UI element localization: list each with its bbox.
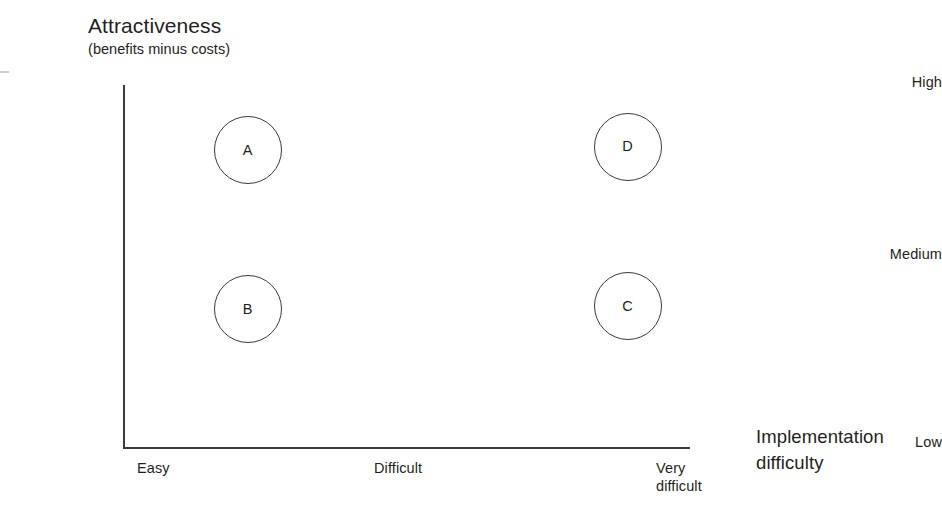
bubble-label-b: B bbox=[243, 302, 253, 317]
y-axis-tick-medium: Medium bbox=[830, 246, 942, 263]
x-axis-title-line1: Implementation bbox=[756, 424, 936, 450]
scan-edge-artifact bbox=[0, 71, 9, 73]
bubble-option-c[interactable]: C bbox=[594, 272, 662, 340]
y-axis-tick-high: High bbox=[830, 74, 942, 91]
bubble-option-a[interactable]: A bbox=[214, 116, 282, 184]
x-axis-tick-very-difficult: Very difficult bbox=[656, 459, 702, 495]
bubble-option-b[interactable]: B bbox=[214, 275, 282, 343]
x-axis-tick-difficult: Difficult bbox=[374, 459, 422, 477]
y-axis-title-subtitle: (benefits minus costs) bbox=[88, 40, 448, 59]
x-axis-tick-very-difficult-line1: Very bbox=[656, 459, 702, 477]
y-axis-title: Attractiveness (benefits minus costs) bbox=[88, 13, 448, 59]
x-axis-line bbox=[123, 447, 690, 449]
bubble-label-c: C bbox=[622, 299, 633, 314]
x-axis-tick-easy: Easy bbox=[137, 459, 170, 477]
x-axis-title: Implementation difficulty bbox=[756, 424, 936, 476]
bubble-label-d: D bbox=[622, 139, 633, 154]
attractiveness-vs-difficulty-matrix: Attractiveness (benefits minus costs) Hi… bbox=[0, 0, 942, 527]
x-axis-title-line2: difficulty bbox=[756, 450, 936, 476]
x-axis-tick-very-difficult-line2: difficult bbox=[656, 477, 702, 495]
bubble-label-a: A bbox=[243, 143, 253, 158]
y-axis-line bbox=[123, 85, 125, 449]
y-axis-title-main: Attractiveness bbox=[88, 13, 448, 38]
bubble-option-d[interactable]: D bbox=[594, 113, 662, 181]
